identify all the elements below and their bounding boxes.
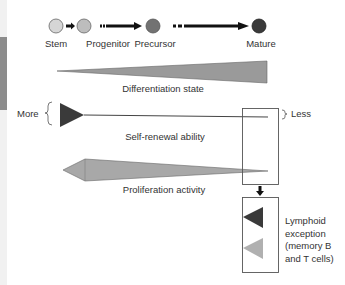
progenitor-label: Progenitor	[86, 39, 130, 49]
lymphoid-exception-line-2: exception	[285, 228, 345, 241]
stem-cell-circle	[49, 19, 63, 33]
down-arrow	[256, 186, 264, 196]
exception-upper-box	[243, 109, 279, 185]
mature-label: Mature	[246, 39, 276, 49]
lymphoid-exception-line-1: Lymphoid	[285, 215, 345, 228]
lymphoid-light-triangle	[243, 238, 263, 259]
stem-label: Stem	[45, 39, 67, 49]
more-label: More	[17, 109, 39, 119]
more-brace-icon	[45, 102, 52, 125]
proliferation-label: Proliferation activity	[123, 185, 205, 195]
differentiation-label: Differentiation state	[122, 84, 204, 94]
self-renewal-line	[84, 115, 268, 117]
arrow-stem-to-progenitor	[66, 23, 75, 30]
lymphoid-dark-triangle	[243, 207, 263, 228]
precursor-label: Precursor	[134, 39, 175, 49]
self-renewal-label: Self-renewal ability	[125, 132, 205, 142]
differentiation-wedge	[57, 61, 267, 83]
proliferation-wedge	[63, 159, 268, 181]
lymphoid-exception-line-3: (memory B	[285, 240, 345, 253]
self-renewal-triangle	[60, 103, 84, 127]
arrow-precursor-to-mature	[173, 22, 249, 30]
progenitor-cell-circle	[77, 19, 91, 33]
arrow-progenitor-to-precursor	[100, 22, 142, 30]
mature-cell-circle	[252, 19, 266, 33]
precursor-cell-circle	[146, 19, 160, 33]
lymphoid-exception-label: Lymphoid exception (memory B and T cells…	[285, 215, 345, 265]
less-label: Less	[291, 109, 311, 119]
lymphoid-exception-line-4: and T cells)	[285, 253, 345, 266]
less-brace-icon	[282, 110, 287, 119]
